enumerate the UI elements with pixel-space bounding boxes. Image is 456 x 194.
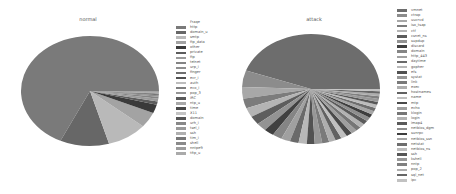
legend-swatch — [176, 97, 186, 100]
attack-chart-panel: attack vmnetctrapuucrvdiso_tsapctfcsnet_… — [228, 0, 456, 194]
legend-swatch — [397, 117, 407, 120]
legend-label: tftp_u — [190, 151, 200, 156]
legend-swatch — [176, 137, 186, 140]
legend-swatch — [397, 45, 407, 48]
legend-swatch — [176, 142, 186, 145]
legend-swatch — [176, 26, 186, 29]
legend-swatch — [397, 143, 407, 146]
legend-swatch — [397, 14, 407, 17]
legend-swatch — [397, 169, 407, 172]
legend-swatch — [176, 102, 186, 105]
legend-swatch — [176, 67, 186, 70]
normal-chart-panel: normal Fraqehttpdomain_usmtpftp_dataothe… — [0, 0, 228, 194]
normal-chart-title: normal — [70, 16, 106, 22]
legend-swatch — [397, 76, 407, 79]
legend-swatch — [397, 9, 407, 12]
attack-pie-chart — [241, 33, 381, 145]
legend-swatch — [397, 20, 407, 23]
legend-item: ipc — [397, 178, 434, 183]
legend-swatch — [176, 41, 186, 44]
attack-legend: vmnetctrapuucrvdiso_tsapctfcsnet_nssupdu… — [397, 8, 434, 183]
legend-swatch — [397, 25, 407, 28]
legend-swatch — [397, 66, 407, 69]
legend-swatch — [397, 56, 407, 59]
legend-swatch — [176, 36, 186, 39]
legend-swatch — [397, 112, 407, 115]
legend-swatch — [397, 61, 407, 64]
legend-swatch — [397, 97, 407, 100]
legend-swatch — [397, 153, 407, 156]
legend-label: ipc — [411, 178, 416, 183]
legend-swatch — [176, 52, 186, 55]
legend-swatch — [397, 81, 407, 84]
legend-swatch — [397, 102, 407, 105]
legend-swatch — [397, 40, 407, 43]
legend-swatch — [397, 86, 407, 89]
legend-swatch — [176, 107, 186, 110]
legend-swatch — [397, 107, 407, 110]
normal-legend: Fraqehttpdomain_usmtpftp_dataotherprivat… — [176, 20, 208, 156]
legend-swatch — [176, 87, 186, 90]
normal-pie-chart — [20, 35, 160, 147]
legend-swatch — [176, 117, 186, 120]
attack-chart-title: attack — [296, 16, 332, 22]
legend-swatch — [397, 179, 407, 182]
legend-swatch — [397, 174, 407, 177]
legend-swatch — [397, 71, 407, 74]
legend-swatch — [397, 92, 407, 95]
legend-swatch — [176, 46, 186, 49]
legend-swatch — [176, 31, 186, 34]
legend-swatch — [397, 133, 407, 136]
legend-swatch — [176, 127, 186, 130]
legend-swatch — [176, 62, 186, 65]
legend-swatch — [176, 152, 186, 155]
legend-swatch — [397, 138, 407, 141]
legend-swatch — [176, 147, 186, 150]
legend-swatch — [176, 77, 186, 80]
legend-swatch — [397, 50, 407, 53]
legend-swatch — [397, 128, 407, 131]
legend-swatch — [176, 82, 186, 85]
legend-swatch — [176, 122, 186, 125]
legend-swatch — [397, 163, 407, 166]
legend-swatch — [176, 72, 186, 75]
legend-swatch — [176, 57, 186, 60]
legend-item: tftp_u — [176, 151, 208, 156]
legend-swatch — [176, 92, 186, 95]
legend-swatch — [176, 112, 186, 115]
legend-swatch — [397, 148, 407, 151]
legend-swatch — [397, 30, 407, 33]
legend-swatch — [397, 158, 407, 161]
legend-swatch — [176, 132, 186, 135]
legend-swatch — [397, 122, 407, 125]
legend-swatch — [397, 35, 407, 38]
